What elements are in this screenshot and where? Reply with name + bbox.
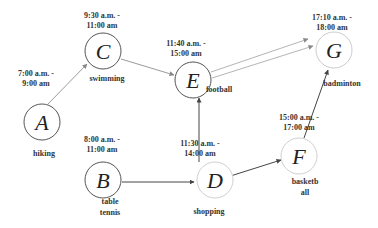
node-letter: C <box>96 39 111 64</box>
time-start-label: 11:30 a.m. - <box>180 139 220 148</box>
node-letter: G <box>326 38 342 63</box>
time-end-label: 18:00 am <box>316 23 348 32</box>
node-f: F15:00 a.m. -17:00 ambasketball <box>279 113 319 197</box>
node-c: C9:30 a.m. -11:00 amswimming <box>84 11 125 83</box>
node-d: D11:30 a.m. -14:00 amshopping <box>180 139 233 216</box>
node-letter: B <box>96 168 109 193</box>
node-b: B8:00 a.m. -11:00 amtabletennis <box>84 135 121 217</box>
activity-label: shopping <box>193 207 224 216</box>
node-a: A7:00 a.m. -9:00 amhiking <box>18 69 60 158</box>
time-start-label: 11:40 a.m. - <box>166 39 206 48</box>
activity-label: basketb <box>292 177 319 186</box>
activity-label: swimming <box>89 74 124 83</box>
time-end-label: 9:00 am <box>22 79 50 88</box>
node-letter: A <box>33 110 49 135</box>
activity-label: all <box>301 188 310 197</box>
time-end-label: 15:00 am <box>170 49 202 58</box>
node-letter: D <box>206 168 223 193</box>
edge-e-g <box>211 39 308 72</box>
time-start-label: 15:00 a.m. - <box>279 113 319 122</box>
nodes: A7:00 a.m. -9:00 amhikingC9:30 a.m. -11:… <box>18 11 361 217</box>
activity-label: badminton <box>323 79 361 88</box>
time-start-label: 9:30 a.m. - <box>84 11 120 20</box>
edge-c-e <box>121 59 174 75</box>
activity-label: tennis <box>100 208 120 217</box>
activity-label: hiking <box>33 149 55 158</box>
node-letter: E <box>185 68 200 93</box>
activity-graph: A7:00 a.m. -9:00 amhikingC9:30 a.m. -11:… <box>0 0 378 228</box>
node-g: G17:10 a.m. -18:00 ambadminton <box>312 13 361 88</box>
time-end-label: 17:00 am <box>283 123 315 132</box>
time-end-label: 14:00 am <box>184 149 216 158</box>
node-e: E11:40 a.m. -15:00 amfootball <box>166 39 233 98</box>
time-start-label: 8:00 a.m. - <box>84 135 120 144</box>
activity-label: football <box>206 85 233 94</box>
activity-label: table <box>102 197 119 206</box>
time-start-label: 7:00 a.m. - <box>18 69 54 78</box>
edge-e-g <box>212 46 313 78</box>
time-end-label: 11:00 am <box>87 145 118 154</box>
node-letter: F <box>291 144 306 169</box>
time-end-label: 11:00 am <box>87 21 118 30</box>
time-start-label: 17:10 a.m. - <box>312 13 352 22</box>
